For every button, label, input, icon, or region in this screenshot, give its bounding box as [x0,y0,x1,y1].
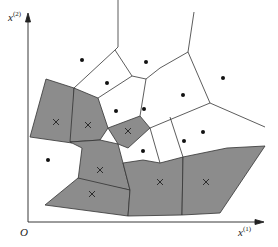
x-axis-sup: (1) [243,225,251,233]
voronoi-diagram [0,0,278,247]
y-axis-label: x(2) [8,10,21,23]
shaded-cell-6 [123,157,183,216]
shaded-cell-1 [30,79,74,143]
x-axis-label: x(1) [238,225,251,238]
y-axis-sup: (2) [13,10,21,18]
origin-label: O [20,226,28,238]
voronoi-edges [74,0,265,163]
shaded-cells [30,79,265,216]
shaded-cell-7 [182,146,265,215]
shaded-cell-2 [70,88,108,142]
